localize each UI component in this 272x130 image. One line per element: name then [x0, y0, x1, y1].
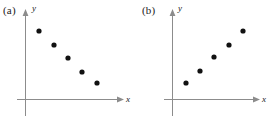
data-point	[197, 68, 202, 73]
data-point	[79, 69, 84, 74]
panel-b-plot	[136, 0, 272, 130]
data-point	[183, 80, 188, 85]
panel-a: (a) y x	[0, 0, 136, 130]
data-point	[240, 28, 245, 33]
data-point	[211, 54, 216, 59]
panel-b: (b) y x	[136, 0, 272, 130]
data-point	[36, 28, 41, 33]
data-point	[226, 42, 231, 47]
panel-a-y-axis-arrowhead	[23, 9, 29, 16]
data-point	[51, 42, 56, 47]
figure-container: (a) y x (b) y x	[0, 0, 272, 130]
panel-a-x-axis-arrowhead	[117, 97, 124, 103]
panel-b-x-axis-arrowhead	[253, 97, 260, 103]
panel-b-y-axis-arrowhead	[170, 9, 176, 16]
data-point	[94, 80, 99, 85]
panel-a-plot	[0, 0, 136, 130]
data-point	[65, 55, 70, 60]
